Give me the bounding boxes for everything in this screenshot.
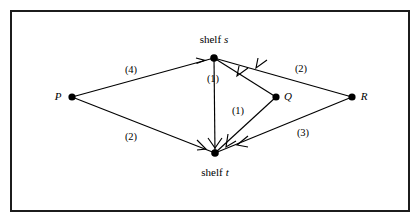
- shelf-s-word: shelf: [200, 33, 221, 45]
- node-dot-shelf-t[interactable]: [211, 149, 219, 157]
- edge-q-to-s: [214, 58, 276, 97]
- node-dot-shelf-s[interactable]: [210, 54, 218, 62]
- node-label-r: R: [361, 91, 368, 102]
- edge-label-p-to-s: (4): [125, 65, 137, 76]
- edge-label-r-to-t: (3): [297, 128, 309, 139]
- node-label-shelf-s: shelfs: [200, 34, 229, 45]
- edge-r-to-s: [214, 58, 352, 97]
- edge-label-s-to-t: (1): [207, 74, 219, 85]
- shelf-t-letter: t: [223, 166, 229, 178]
- node-label-shelf-t: shelft: [201, 167, 228, 178]
- edge-p-to-t: [72, 97, 215, 153]
- edge-label-r-to-s: (2): [295, 64, 307, 75]
- node-dot-p[interactable]: [68, 93, 75, 100]
- shelf-s-letter: s: [221, 33, 228, 45]
- node-label-q: Q: [284, 91, 292, 102]
- edge-label-q: (1): [232, 106, 244, 117]
- edge-label-p-to-t: (2): [125, 132, 137, 143]
- arrowhead-p-to-s: [196, 58, 205, 64]
- node-dot-q[interactable]: [272, 93, 279, 100]
- edge-q-to-t: [215, 97, 276, 153]
- figure-root: shelfs shelft P Q R (4) (2) (1) (1) (2) …: [0, 0, 420, 224]
- arrowhead-r-to-s: [256, 58, 267, 68]
- node-label-p: P: [55, 91, 62, 102]
- edge-p-to-s: [72, 58, 214, 97]
- node-dot-r[interactable]: [348, 93, 355, 100]
- shelf-t-word: shelf: [201, 166, 222, 178]
